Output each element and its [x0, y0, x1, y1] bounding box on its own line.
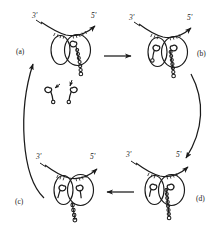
panel-c	[40, 163, 97, 222]
panel-a-lobes	[51, 35, 91, 66]
panel-a-strand	[41, 22, 95, 36]
panel-c-five-prime-label: 5'	[90, 152, 95, 161]
panel-c-three-prime-label: 3'	[36, 152, 41, 161]
panel-a-five-prime-label: 5'	[91, 11, 96, 20]
panel-a-pointer-left-icon	[55, 84, 60, 88]
panel-a	[36, 20, 95, 104]
panel-b-strand	[139, 24, 191, 38]
panel-d-ribbon-left	[149, 184, 156, 197]
panel-a-free-ribbon-right	[67, 87, 77, 104]
panel-a-free-ribbon-left	[45, 87, 55, 104]
panel-b-five-prime-label: 5'	[187, 13, 192, 22]
panel-a-beaded-chain	[76, 46, 83, 76]
arrow-c-to-a	[24, 64, 44, 198]
panel-b-ribbon-left	[151, 45, 160, 62]
panel-b-three-prime-label: 3'	[129, 13, 134, 22]
panel-b-beaded-chain	[169, 50, 175, 78]
panel-c-ribbon-left	[58, 185, 66, 198]
diagram-svg	[0, 0, 221, 242]
panel-c-ribbon-right	[76, 185, 83, 198]
panel-d-ribbon-right	[167, 184, 174, 190]
panel-a-pointer-right-icon	[70, 80, 72, 86]
panel-a-three-prime-label: 3'	[32, 11, 37, 20]
panel-d	[131, 161, 188, 220]
panel-d-three-prime-label: 3'	[126, 150, 131, 159]
panel-label-c: (c)	[15, 197, 23, 206]
panel-b	[134, 22, 191, 78]
panel-label-a: (a)	[16, 47, 24, 56]
panel-d-five-prime-label: 5'	[176, 150, 181, 159]
panel-d-strand	[136, 163, 188, 177]
figure-canvas: (a) 3' 5' (b) 3' 5' (d) 3' 5' (c) 3' 5'	[0, 0, 221, 242]
panel-label-b: (b)	[197, 49, 206, 58]
panel-c-strand	[45, 165, 97, 179]
panel-label-d: (d)	[196, 194, 205, 203]
arrow-b-to-d	[186, 74, 201, 158]
